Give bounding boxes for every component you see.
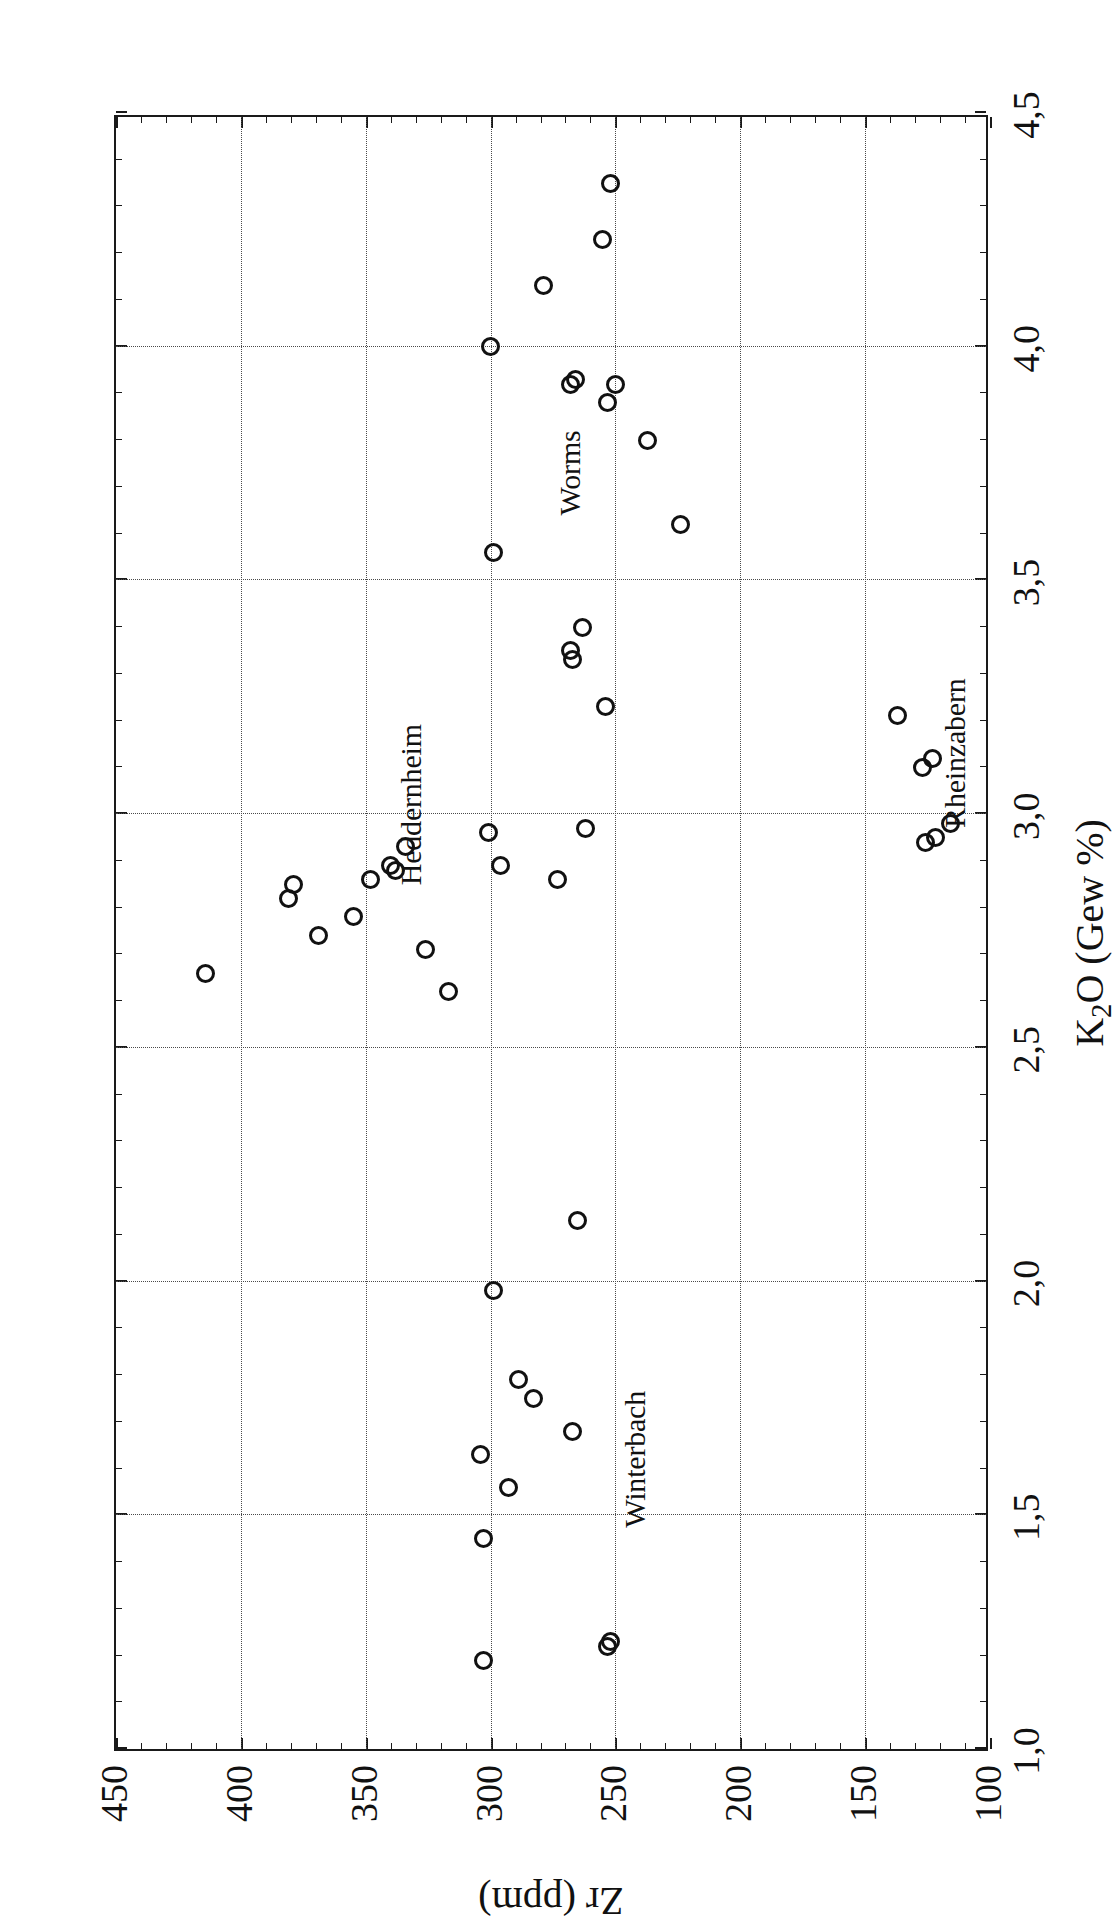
y-axis-minor-tick xyxy=(715,117,716,123)
x-axis-minor-tick xyxy=(980,720,986,721)
y-axis-minor-tick xyxy=(765,1743,766,1749)
y-axis-minor-tick xyxy=(191,117,192,123)
y-axis-minor-tick xyxy=(790,117,791,123)
y-axis-minor-tick xyxy=(565,117,566,123)
x-axis-minor-tick xyxy=(116,1374,122,1375)
cluster-label-worms: Worms xyxy=(553,431,587,516)
y-axis-minor-tick xyxy=(216,1743,217,1749)
x-axis-minor-tick xyxy=(980,1468,986,1469)
x-axis-minor-tick xyxy=(116,1187,122,1188)
y-axis-minor-tick xyxy=(565,1743,566,1749)
data-point-marker xyxy=(524,1389,543,1408)
data-point-marker xyxy=(416,940,435,959)
cluster-label-heddernheim: Heddernheim xyxy=(394,724,428,885)
x-axis-minor-tick xyxy=(980,159,986,160)
y-axis-minor-tick xyxy=(416,117,417,123)
y-axis-minor-tick xyxy=(815,1743,816,1749)
data-point-marker xyxy=(474,1529,493,1548)
x-axis-title-tail: O (Gew %) xyxy=(1067,819,1112,1003)
data-point-marker xyxy=(561,641,580,660)
y-axis-minor-tick xyxy=(915,117,916,123)
y-axis-minor-tick xyxy=(965,117,966,123)
x-axis-minor-tick xyxy=(116,1468,122,1469)
y-axis-minor-tick xyxy=(466,1743,467,1749)
data-point-marker xyxy=(601,174,620,193)
x-axis-minor-tick xyxy=(980,533,986,534)
data-point-marker xyxy=(606,375,625,394)
gridline-vertical xyxy=(116,813,986,814)
x-axis-major-tick xyxy=(116,812,127,814)
y-axis-minor-tick xyxy=(141,1743,142,1749)
x-axis-minor-tick xyxy=(980,907,986,908)
x-axis-minor-tick xyxy=(116,860,122,861)
y-axis-minor-tick xyxy=(690,1743,691,1749)
x-axis-minor-tick xyxy=(116,206,122,207)
y-axis-minor-tick xyxy=(665,117,666,123)
x-axis-title-subscript: 2 xyxy=(1085,1004,1116,1018)
x-axis-major-tick xyxy=(116,111,127,113)
y-axis-minor-tick xyxy=(266,1743,267,1749)
y-axis-title: Zr (ppm) xyxy=(478,1878,624,1919)
x-axis-major-tick xyxy=(116,1513,127,1515)
y-axis-minor-tick xyxy=(840,117,841,123)
x-axis-minor-tick xyxy=(116,720,122,721)
y-axis-minor-tick xyxy=(665,1743,666,1749)
x-axis-minor-tick xyxy=(980,1701,986,1702)
y-axis-tick-label: 200 xyxy=(716,1765,760,1822)
y-axis-major-tick xyxy=(615,1738,617,1749)
data-point-marker xyxy=(888,706,907,725)
data-point-marker xyxy=(566,370,585,389)
y-axis-major-tick xyxy=(740,117,742,128)
x-axis-minor-tick xyxy=(116,1140,122,1141)
x-axis-minor-tick xyxy=(980,1187,986,1188)
y-axis-major-tick xyxy=(740,1738,742,1749)
gridline-horizontal xyxy=(865,117,866,1749)
x-axis-major-tick xyxy=(116,578,127,580)
data-point-marker xyxy=(471,1445,490,1464)
x-axis-minor-tick xyxy=(116,626,122,627)
y-axis-minor-tick xyxy=(690,117,691,123)
x-axis-minor-tick xyxy=(116,953,122,954)
y-axis-tick-label: 400 xyxy=(217,1765,261,1822)
y-axis-minor-tick xyxy=(940,117,941,123)
y-axis-major-tick xyxy=(990,117,992,128)
data-point-marker xyxy=(484,1281,503,1300)
data-point-marker xyxy=(484,543,503,562)
x-axis-minor-tick xyxy=(116,1561,122,1562)
x-axis-minor-tick xyxy=(980,1421,986,1422)
x-axis-minor-tick xyxy=(980,626,986,627)
data-point-marker xyxy=(491,856,510,875)
y-axis-major-tick xyxy=(116,1738,118,1749)
y-axis-tick-label: 250 xyxy=(591,1765,635,1822)
y-axis-major-tick xyxy=(491,1738,493,1749)
x-axis-minor-tick xyxy=(980,299,986,300)
gridline-horizontal xyxy=(241,117,242,1749)
y-axis-minor-tick xyxy=(715,1743,716,1749)
y-axis-minor-tick xyxy=(590,1743,591,1749)
gridline-vertical xyxy=(116,346,986,347)
x-axis-minor-tick xyxy=(116,1000,122,1001)
x-axis-minor-tick xyxy=(980,673,986,674)
y-axis-minor-tick xyxy=(815,117,816,123)
plot-area: WinterbachHeddernheimWormsRheinzabern xyxy=(114,115,988,1751)
y-axis-minor-tick xyxy=(291,1743,292,1749)
y-axis-minor-tick xyxy=(291,117,292,123)
y-axis-minor-tick xyxy=(965,1743,966,1749)
y-axis-minor-tick xyxy=(391,117,392,123)
y-axis-minor-tick xyxy=(141,117,142,123)
y-axis-major-tick xyxy=(241,1738,243,1749)
y-axis-minor-tick xyxy=(441,117,442,123)
x-axis-minor-tick xyxy=(980,1374,986,1375)
x-axis-title-lead: K xyxy=(1067,1018,1112,1047)
data-point-marker xyxy=(926,828,945,847)
x-axis-minor-tick xyxy=(980,1234,986,1235)
data-point-marker xyxy=(601,1632,620,1651)
x-axis-minor-tick xyxy=(980,860,986,861)
y-axis-minor-tick xyxy=(266,117,267,123)
y-axis-minor-tick xyxy=(940,1743,941,1749)
y-axis-minor-tick xyxy=(166,117,167,123)
data-point-marker xyxy=(638,431,657,450)
x-axis-minor-tick xyxy=(980,252,986,253)
y-axis-minor-tick xyxy=(840,1743,841,1749)
y-axis-minor-tick xyxy=(541,1743,542,1749)
